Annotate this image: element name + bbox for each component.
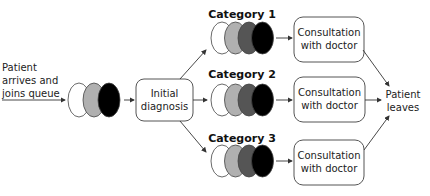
category-1-queue-patient-4 bbox=[252, 22, 274, 54]
category-3-consult-line-2: with doctor bbox=[301, 163, 358, 174]
start-label-line-2: arrives and bbox=[2, 75, 58, 86]
initial-diagnosis-line-1: Initial bbox=[151, 88, 179, 99]
category-3-branch: Category 3 Consultation with doctor bbox=[208, 132, 364, 185]
diagnosis-to-category-3-arrow bbox=[180, 121, 206, 152]
patient-flow-diagram: Patient arrives and joins queue Initial … bbox=[0, 0, 430, 196]
category-1-label: Category 1 bbox=[208, 8, 276, 21]
category-3-queue-patient-4 bbox=[252, 145, 274, 177]
entry-queue-patient-3 bbox=[98, 83, 120, 117]
category-2-label: Category 2 bbox=[208, 68, 276, 81]
category-3-label: Category 3 bbox=[208, 132, 276, 145]
category-2-branch: Category 2 Consultation with doctor bbox=[208, 68, 365, 122]
category-1-consult-line-1: Consultation bbox=[298, 27, 361, 38]
start-label: Patient arrives and joins queue bbox=[1, 62, 60, 99]
end-label-line-2: leaves bbox=[387, 102, 419, 113]
category-1-consult-line-2: with doctor bbox=[301, 40, 358, 51]
category-3-consult-line-1: Consultation bbox=[298, 150, 361, 161]
consult-1-to-exit-arrow bbox=[363, 50, 389, 86]
initial-diagnosis-node: Initial diagnosis bbox=[136, 79, 193, 121]
category-1-queue bbox=[211, 22, 274, 54]
start-label-line-1: Patient bbox=[2, 62, 37, 73]
diagnosis-to-category-1-arrow bbox=[180, 50, 206, 79]
start-label-line-3: joins queue bbox=[1, 88, 60, 99]
category-2-queue-patient-4 bbox=[252, 84, 274, 116]
category-3-queue bbox=[211, 145, 274, 177]
initial-diagnosis-line-2: diagnosis bbox=[141, 101, 188, 112]
entry-queue bbox=[68, 83, 120, 117]
initial-diagnosis-box bbox=[136, 79, 193, 121]
category-2-consult-line-2: with doctor bbox=[301, 100, 358, 111]
end-label: Patient leaves bbox=[386, 89, 421, 113]
category-2-queue bbox=[211, 84, 274, 116]
consult-3-to-exit-arrow bbox=[364, 116, 389, 150]
category-1-branch: Category 1 Consultation with doctor bbox=[208, 8, 364, 62]
end-label-line-1: Patient bbox=[386, 89, 421, 100]
category-2-consult-line-1: Consultation bbox=[298, 87, 361, 98]
